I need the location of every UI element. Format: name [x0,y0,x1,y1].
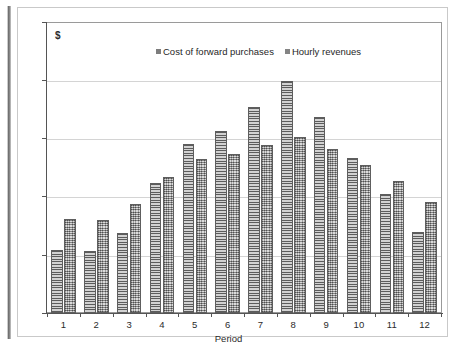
bar-series1-period-1 [51,250,63,313]
bar-series2-period-11 [393,181,405,313]
x-tick-mark-9 [343,313,344,317]
bar-series2-period-5 [196,159,208,313]
x-tick-mark-3 [146,313,147,317]
x-tick-mark-5 [211,313,212,317]
bar-series1-period-4 [150,183,162,313]
x-tick-label-5: 5 [192,319,197,330]
x-tick-label-2: 2 [94,319,99,330]
x-tick-mark-2 [113,313,114,317]
x-tick-mark-8 [310,313,311,317]
x-tick-mark-6 [244,313,245,317]
x-tick-label-1: 1 [61,319,66,330]
y-tick-mark-5000 [42,255,46,256]
x-tick-label-12: 12 [419,319,430,330]
bar-series2-period-3 [130,204,142,313]
x-tick-label-8: 8 [291,319,296,330]
bar-series1-period-7 [248,107,260,313]
x-tick-label-9: 9 [323,319,328,330]
scan-edge-artifact [7,6,11,339]
chart-figure: 25 000 20 000 15 000 10 000 5 000 0 $ Co… [0,0,457,352]
x-tick-label-11: 11 [387,319,397,330]
x-tick-mark-10 [375,313,376,317]
y-tick-mark-15000 [42,138,46,139]
bar-series1-period-10 [347,158,359,313]
x-tick-mark-11 [408,313,409,317]
x-tick-mark-4 [178,313,179,317]
bar-series2-period-8 [294,137,306,313]
bar-series2-period-6 [228,154,240,313]
y-tick-mark-10000 [42,196,46,197]
x-tick-label-6: 6 [225,319,230,330]
bar-series1-period-11 [380,194,392,313]
bar-series1-period-6 [215,131,227,313]
bar-series2-period-10 [360,165,372,313]
bar-series1-period-12 [412,232,424,313]
bar-series2-period-2 [97,220,109,313]
x-axis-title: Period [0,333,457,344]
bar-series2-period-9 [327,149,339,313]
x-tick-label-10: 10 [354,319,365,330]
y-tick-mark-0 [42,313,46,314]
bar-series2-period-7 [261,145,273,313]
bar-series2-period-12 [425,202,437,313]
x-tick-mark-7 [277,313,278,317]
bar-series2-period-1 [64,219,76,313]
x-tick-label-7: 7 [258,319,263,330]
bar-series1-period-3 [117,233,129,313]
x-tick-mark-origin [47,313,48,317]
y-tick-mark-25000 [42,22,46,23]
x-tick-mark-1 [80,313,81,317]
x-tick-mark-12 [441,313,442,317]
bar-series1-period-5 [183,144,195,313]
bars-container [47,22,441,313]
x-tick-label-4: 4 [159,319,164,330]
y-tick-mark-20000 [42,80,46,81]
x-tick-label-3: 3 [126,319,131,330]
bar-series1-period-2 [84,251,96,313]
bar-series2-period-4 [163,177,175,313]
bar-series1-period-8 [281,81,293,313]
bar-series1-period-9 [314,117,326,313]
